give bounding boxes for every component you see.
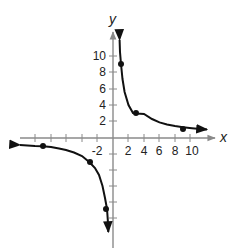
point-neg9-neg1	[40, 143, 46, 149]
x-tick-label: 8	[172, 144, 179, 158]
tick-labels: -2 2 4 6 8 10 2 4 6 8 10	[92, 49, 199, 158]
curve-quadrant-3	[20, 145, 108, 232]
curve-quadrant-1	[120, 40, 207, 130]
hyperbola-graph: -2 2 4 6 8 10 2 4 6 8 10 x y	[0, 0, 240, 252]
x-tick-label: 10	[185, 144, 199, 158]
point-3-3	[133, 110, 139, 116]
y-tick-label: 2	[99, 114, 106, 128]
x-tick-label: 4	[141, 144, 148, 158]
y-tick-label: 8	[99, 65, 106, 79]
x-axis-label: x	[219, 129, 228, 145]
point-neg1-neg9	[103, 206, 109, 212]
point-neg3-neg3	[87, 159, 93, 165]
y-tick-label: 10	[93, 49, 107, 63]
y-tick-label: 4	[99, 98, 106, 112]
x-tick-label: 2	[125, 144, 132, 158]
point-1-9	[118, 61, 124, 67]
x-tick-label: 6	[156, 144, 163, 158]
point-9-1	[180, 126, 186, 132]
y-axis-label: y	[108, 11, 117, 27]
y-tick-label: 6	[99, 82, 106, 96]
x-tick-label: -2	[92, 144, 103, 158]
axes	[20, 32, 215, 248]
